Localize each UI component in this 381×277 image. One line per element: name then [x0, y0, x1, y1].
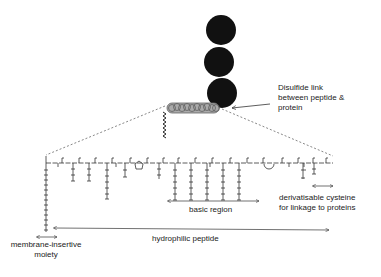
- membrane-line-1: membrane-insertive: [6, 240, 86, 250]
- disulfide-line-3: protein: [278, 103, 344, 113]
- lipid-tail: [163, 112, 166, 138]
- membrane-line-2: moiety: [6, 250, 86, 260]
- basic-region-label: basic region: [189, 205, 232, 215]
- disulfide-line-2: between peptide &: [278, 93, 344, 103]
- disulfide-label: Disulfide link between peptide & protein: [278, 83, 344, 113]
- peptide-helix: [167, 103, 220, 113]
- disulfide-line-1: Disulfide link: [278, 83, 344, 93]
- cysteine-line-2: for linkage to proteins: [279, 203, 356, 213]
- diagram-canvas: Disulfide link between peptide & protein…: [0, 0, 381, 277]
- protein-domains: [204, 15, 237, 108]
- cysteine-line-1: derivatisable cysteine: [279, 193, 356, 203]
- hydrophilic-label: hydrophilic peptide: [152, 234, 219, 244]
- cysteine-label: derivatisable cysteine for linkage to pr…: [279, 193, 356, 213]
- membrane-label: membrane-insertive moiety: [6, 240, 86, 260]
